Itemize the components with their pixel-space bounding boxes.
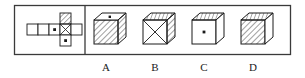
net-cell-blank-2 bbox=[38, 24, 49, 35]
net-cell-hatch bbox=[60, 13, 71, 24]
cube-folding-puzzle: A B C D bbox=[0, 0, 305, 78]
dot-marker bbox=[109, 16, 111, 18]
option-d-label: D bbox=[249, 61, 257, 73]
dot-marker bbox=[53, 28, 56, 31]
option-c-label: C bbox=[200, 61, 207, 73]
net-cell-blank-1 bbox=[27, 24, 38, 35]
option-a-front-face bbox=[94, 20, 118, 44]
dot-marker bbox=[203, 31, 206, 34]
net-cell-blank-3 bbox=[71, 24, 82, 35]
option-a-label: A bbox=[102, 61, 110, 73]
dot-marker bbox=[64, 39, 67, 42]
puzzle-figure: A B C D bbox=[0, 0, 305, 78]
option-b-label: B bbox=[151, 61, 158, 73]
option-d-front-face bbox=[241, 20, 265, 44]
